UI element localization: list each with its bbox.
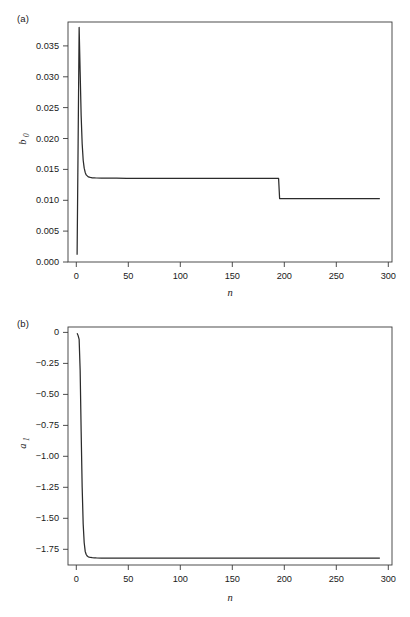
xtick-label: 200 (277, 271, 292, 281)
ytick-label: 0.000 (36, 257, 59, 267)
xtick-label: 250 (329, 574, 344, 584)
panel-b-frame (68, 327, 392, 565)
ytick-label: −0.50 (36, 389, 59, 399)
xtick-label: 150 (225, 271, 240, 281)
ytick-label: 0.030 (36, 72, 59, 82)
panel-a-ylabel-sub: 0 (23, 133, 31, 137)
ytick-label: −0.75 (36, 420, 59, 430)
panel-a-frame (68, 22, 392, 262)
xtick-label: 0 (74, 271, 79, 281)
ytick-label: 0 (54, 327, 59, 337)
panel-b-xlabel: n (227, 592, 232, 603)
panel-a-xlabel: n (227, 287, 232, 298)
panel-b-ylabel-sub: 1 (23, 437, 31, 441)
xtick-label: 50 (123, 574, 133, 584)
ytick-label: 0.025 (36, 103, 59, 113)
panel-b-ylabel: a 1 (17, 437, 31, 448)
ytick-label: 0.015 (36, 164, 59, 174)
ytick-label: −1.00 (36, 451, 59, 461)
ytick-label: 0.010 (36, 195, 59, 205)
panel-a-plot: 0.000 0.005 0.010 0.015 0.020 0.025 0.03… (0, 0, 410, 310)
panel-a-ylabel: b 0 (17, 133, 31, 145)
ytick-label: −1.50 (36, 513, 59, 523)
xtick-label: 0 (74, 574, 79, 584)
panel-b-plot: 0 −0.25 −0.50 −0.75 −1.00 −1.25 −1.50 −1… (0, 310, 410, 617)
ytick-label: 0.005 (36, 226, 59, 236)
panel-b-data-line (77, 333, 380, 558)
panel-b-xaxis: 0 50 100 150 200 250 300 (74, 565, 396, 584)
panel-a-ylabel-base: b (17, 139, 28, 144)
panel-a-yaxis: 0.000 0.005 0.010 0.015 0.020 0.025 0.03… (36, 41, 68, 267)
ytick-label: −1.25 (36, 482, 59, 492)
panel-b-yaxis: 0 −0.25 −0.50 −0.75 −1.00 −1.25 −1.50 −1… (36, 327, 68, 554)
ytick-label: −1.75 (36, 544, 59, 554)
xtick-label: 150 (225, 574, 240, 584)
panel-b-ylabel-base: a (17, 443, 28, 448)
xtick-label: 300 (381, 574, 396, 584)
figure-container: (a) 0.000 0.005 0.010 0.015 0.020 0.025 … (0, 0, 410, 617)
ytick-label: 0.035 (36, 41, 59, 51)
ytick-label: −0.25 (36, 358, 59, 368)
panel-a-xaxis: 0 50 100 150 200 250 300 (74, 262, 396, 281)
ytick-label: 0.020 (36, 134, 59, 144)
xtick-label: 250 (329, 271, 344, 281)
xtick-label: 100 (173, 574, 188, 584)
xtick-label: 50 (123, 271, 133, 281)
panel-a-data-line (77, 27, 380, 254)
xtick-label: 100 (173, 271, 188, 281)
panel-b: (b) 0 −0.25 −0.50 −0.75 −1.00 −1.25 −1.5… (0, 310, 410, 617)
xtick-label: 200 (277, 574, 292, 584)
panel-a: (a) 0.000 0.005 0.010 0.015 0.020 0.025 … (0, 0, 410, 310)
xtick-label: 300 (381, 271, 396, 281)
